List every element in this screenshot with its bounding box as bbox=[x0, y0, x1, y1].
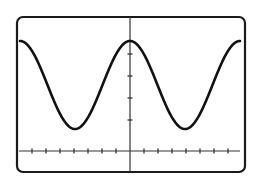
oscilloscope-screen bbox=[0, 0, 255, 182]
oscilloscope-diagram bbox=[0, 0, 255, 182]
